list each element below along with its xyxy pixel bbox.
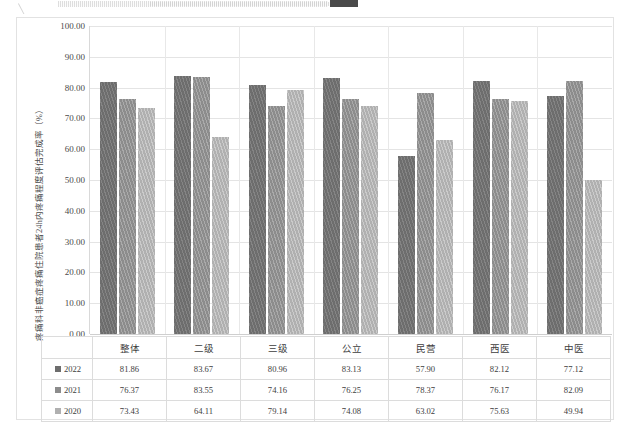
plot-area: 100.0090.0080.0070.0060.0050.0040.0030.0… <box>89 26 611 334</box>
table-corner-cell <box>42 337 93 359</box>
chart-container: 疼痛科非癌症疼痛住院患者24h内疼痛程度评估完成率（%） 100.0090.00… <box>16 17 614 420</box>
table-cell: 83.67 <box>167 359 241 380</box>
y-axis-tick-label: 50.00 <box>65 175 85 185</box>
bar-2020-中医 <box>585 180 602 334</box>
crop-edge-mark <box>18 0 35 14</box>
table-row: 202073.4364.1179.1474.0863.0275.6349.94 <box>42 401 611 422</box>
table-row: 202281.8683.6780.9683.1357.9082.1277.12 <box>42 359 611 380</box>
y-axis-tick-label: 40.00 <box>65 206 85 216</box>
bar-2021-二级 <box>193 77 210 334</box>
gridline <box>90 334 612 335</box>
bar-2020-西医 <box>511 101 528 334</box>
table-row-header-2020: 2020 <box>42 401 93 422</box>
bar-2022-民营 <box>398 156 415 334</box>
table-cell: 80.96 <box>241 359 315 380</box>
y-axis-tick-label: 70.00 <box>65 113 85 123</box>
table-cell: 57.90 <box>389 359 463 380</box>
bar-2020-公立 <box>361 106 378 334</box>
bar-2021-三级 <box>268 106 285 334</box>
group-separator <box>165 26 166 334</box>
bar-group <box>239 26 314 334</box>
table-cell: 64.11 <box>167 401 241 422</box>
table-cell: 81.86 <box>93 359 167 380</box>
bar-group <box>388 26 463 334</box>
bar-group <box>165 26 240 334</box>
table-cell: 74.16 <box>241 380 315 401</box>
bar-2022-二级 <box>174 76 191 334</box>
series-swatch-icon <box>55 387 61 393</box>
bar-2021-整体 <box>119 99 136 334</box>
table-cell: 79.14 <box>241 401 315 422</box>
table-cell: 76.17 <box>463 380 537 401</box>
table-cell: 82.09 <box>537 380 611 401</box>
table-column-header: 西医 <box>463 337 537 359</box>
table-cell: 63.02 <box>389 401 463 422</box>
table-column-header: 民营 <box>389 337 463 359</box>
table-cell: 76.37 <box>93 380 167 401</box>
y-axis-tick-label: 10.00 <box>65 298 85 308</box>
bars-layer <box>90 26 612 334</box>
top-cropped-artifact <box>0 0 627 14</box>
y-axis-tick-label: 30.00 <box>65 237 85 247</box>
bar-2021-公立 <box>342 99 359 334</box>
table-column-header: 整体 <box>93 337 167 359</box>
table-cell: 83.55 <box>167 380 241 401</box>
crop-text-strip-secondary <box>150 2 330 6</box>
table-cell: 75.63 <box>463 401 537 422</box>
bar-2022-西医 <box>473 81 490 334</box>
group-separator <box>463 26 464 334</box>
y-axis-tick-label: 60.00 <box>65 144 85 154</box>
table-cell: 77.12 <box>537 359 611 380</box>
bar-2021-中医 <box>566 81 583 334</box>
table-cell: 49.94 <box>537 401 611 422</box>
bar-2021-民营 <box>417 93 434 334</box>
bar-group <box>537 26 612 334</box>
series-swatch-icon <box>55 408 61 414</box>
table-column-header: 二级 <box>167 337 241 359</box>
bar-2022-整体 <box>100 82 117 334</box>
group-separator <box>239 26 240 334</box>
bar-2022-公立 <box>323 78 340 334</box>
y-axis-title: 疼痛科非癌症疼痛住院患者24h内疼痛程度评估完成率（%） <box>31 78 47 368</box>
bar-2022-中医 <box>547 96 564 334</box>
bar-group <box>314 26 389 334</box>
table-cell: 73.43 <box>93 401 167 422</box>
bar-2020-整体 <box>138 108 155 334</box>
bar-group <box>90 26 165 334</box>
group-separator <box>537 26 538 334</box>
table-column-header: 公立 <box>315 337 389 359</box>
table-cell: 83.13 <box>315 359 389 380</box>
bar-2020-三级 <box>287 90 304 334</box>
bar-2020-民营 <box>436 140 453 334</box>
y-axis-tick-label: 100.00 <box>60 21 85 31</box>
data-table: 整体二级三级公立民营西医中医202281.8683.6780.9683.1357… <box>41 336 611 422</box>
y-axis-tick-label: 90.00 <box>65 52 85 62</box>
table-row: 202176.3783.5574.1676.2578.3776.1782.09 <box>42 380 611 401</box>
table-cell: 74.08 <box>315 401 389 422</box>
table-row-header-2021: 2021 <box>42 380 93 401</box>
table-row-header-2022: 2022 <box>42 359 93 380</box>
crop-dark-block <box>330 0 358 7</box>
series-swatch-icon <box>55 366 61 372</box>
bar-group <box>463 26 538 334</box>
bar-2021-西医 <box>492 99 509 334</box>
table-header-row: 整体二级三级公立民营西医中医 <box>42 337 611 359</box>
y-axis-tick-label: 20.00 <box>65 267 85 277</box>
table-column-header: 三级 <box>241 337 315 359</box>
table-cell: 76.25 <box>315 380 389 401</box>
table-column-header: 中医 <box>537 337 611 359</box>
table-cell: 82.12 <box>463 359 537 380</box>
group-separator <box>314 26 315 334</box>
table-cell: 78.37 <box>389 380 463 401</box>
y-axis-tick-label: 80.00 <box>65 83 85 93</box>
bar-2022-三级 <box>249 85 266 334</box>
group-separator <box>388 26 389 334</box>
bar-2020-二级 <box>212 137 229 334</box>
